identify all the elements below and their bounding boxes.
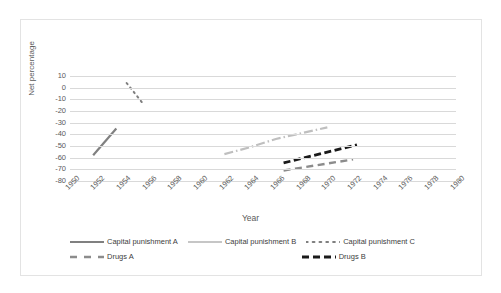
chart-legend: Capital punishment A Capital punishment … bbox=[70, 234, 450, 264]
legend-row: Drugs A Drugs B bbox=[70, 249, 450, 264]
gridline bbox=[70, 111, 456, 112]
gridline bbox=[70, 134, 456, 135]
series-line bbox=[93, 129, 116, 156]
legend-swatch-solid-gray bbox=[70, 238, 104, 246]
legend-item-drugs-b[interactable]: Drugs B bbox=[302, 252, 376, 261]
gridline bbox=[70, 158, 456, 159]
plot-area bbox=[70, 76, 456, 181]
gridline bbox=[70, 76, 456, 77]
x-axis-title: Year bbox=[0, 213, 501, 223]
legend-label: Capital punishment A bbox=[107, 237, 188, 246]
gridline bbox=[70, 146, 456, 147]
legend-label: Drugs A bbox=[107, 252, 144, 261]
gridline bbox=[70, 169, 456, 170]
gridline bbox=[70, 99, 456, 100]
series-line bbox=[127, 83, 144, 104]
legend-row: Capital punishment A Capital punishment … bbox=[70, 234, 450, 249]
legend-item-capital-punishment-c[interactable]: Capital punishment C bbox=[306, 237, 425, 246]
legend-swatch-solid-light-gray bbox=[188, 238, 222, 246]
y-axis-title: Net percentage bbox=[27, 9, 36, 129]
legend-swatch-dashed-gray bbox=[70, 253, 104, 261]
chart-container: Net percentage 10 0 -10 -20 -30 -40 -50 … bbox=[0, 0, 501, 293]
legend-item-capital-punishment-a[interactable]: Capital punishment A bbox=[70, 237, 188, 246]
series-line bbox=[224, 127, 327, 154]
legend-label: Capital punishment C bbox=[343, 237, 425, 246]
gridline bbox=[70, 123, 456, 124]
legend-swatch-dotted-gray bbox=[306, 238, 340, 246]
legend-item-capital-punishment-b[interactable]: Capital punishment B bbox=[188, 237, 306, 246]
legend-swatch-dashed-black bbox=[302, 253, 336, 261]
legend-label: Drugs B bbox=[339, 252, 376, 261]
legend-label: Capital punishment B bbox=[225, 237, 306, 246]
legend-item-drugs-a[interactable]: Drugs A bbox=[70, 252, 144, 261]
gridline bbox=[70, 88, 456, 89]
series-layer bbox=[70, 76, 456, 182]
